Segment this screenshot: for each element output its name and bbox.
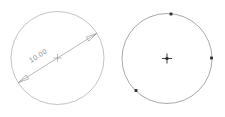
grip-bottom-left[interactable] bbox=[135, 89, 138, 92]
cad-drawing-area[interactable]: 10.00 bbox=[0, 0, 225, 117]
grip-top[interactable] bbox=[170, 13, 173, 16]
cad-vector-canvas[interactable]: 10.00 bbox=[0, 0, 225, 117]
grip-right[interactable] bbox=[210, 57, 213, 60]
